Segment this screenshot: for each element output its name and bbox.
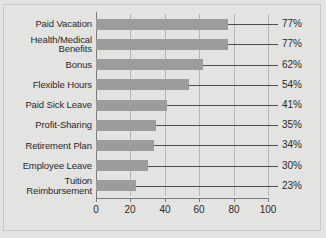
x-tick bbox=[234, 198, 235, 202]
category-label: Tuition Reimbursement bbox=[6, 176, 92, 195]
category-label: Retirement Plan bbox=[6, 141, 92, 151]
value-label: 30% bbox=[282, 161, 302, 171]
value-label: 34% bbox=[282, 140, 302, 150]
leader-line bbox=[154, 145, 278, 146]
category-label: Bonus bbox=[6, 60, 92, 70]
category-label: Profit-Sharing bbox=[6, 120, 92, 130]
value-label: 62% bbox=[282, 60, 302, 70]
x-tick bbox=[165, 198, 166, 202]
value-label: 35% bbox=[282, 120, 302, 130]
category-label: Paid Sick Leave bbox=[6, 100, 92, 110]
bar bbox=[96, 19, 228, 30]
leader-line bbox=[167, 105, 278, 106]
y-axis-category-labels: Paid VacationHealth/Medical BenefitsBonu… bbox=[6, 14, 92, 196]
value-label: 41% bbox=[282, 100, 302, 110]
x-tick bbox=[96, 198, 97, 202]
bar bbox=[96, 160, 148, 171]
x-tick-label: 0 bbox=[81, 204, 111, 215]
x-tick-label: 80 bbox=[219, 204, 249, 215]
leader-line bbox=[148, 166, 278, 167]
bar bbox=[96, 100, 167, 111]
bar bbox=[96, 79, 189, 90]
leader-line bbox=[228, 24, 278, 25]
x-tick bbox=[199, 198, 200, 202]
category-label: Employee Leave bbox=[6, 161, 92, 171]
bar bbox=[96, 120, 156, 131]
x-tick bbox=[268, 198, 269, 202]
value-label: 54% bbox=[282, 80, 302, 90]
leader-line bbox=[156, 125, 278, 126]
bar-chart: Paid VacationHealth/Medical BenefitsBonu… bbox=[0, 0, 326, 238]
value-label: 77% bbox=[282, 19, 302, 29]
category-label: Paid Vacation bbox=[6, 19, 92, 29]
value-label: 77% bbox=[282, 39, 302, 49]
category-label: Health/Medical Benefits bbox=[6, 35, 92, 54]
bar bbox=[96, 140, 154, 151]
x-axis-line bbox=[96, 198, 269, 199]
leader-line bbox=[203, 65, 278, 66]
x-tick-label: 100 bbox=[253, 204, 283, 215]
bar bbox=[96, 39, 228, 50]
bar bbox=[96, 180, 136, 191]
x-tick-label: 60 bbox=[184, 204, 214, 215]
value-label: 23% bbox=[282, 181, 302, 191]
bar bbox=[96, 59, 203, 70]
category-label: Flexible Hours bbox=[6, 80, 92, 90]
x-tick bbox=[130, 198, 131, 202]
leader-line bbox=[228, 44, 278, 45]
leader-line bbox=[189, 85, 278, 86]
leader-line bbox=[136, 186, 278, 187]
x-tick-label: 40 bbox=[150, 204, 180, 215]
x-tick-label: 20 bbox=[115, 204, 145, 215]
